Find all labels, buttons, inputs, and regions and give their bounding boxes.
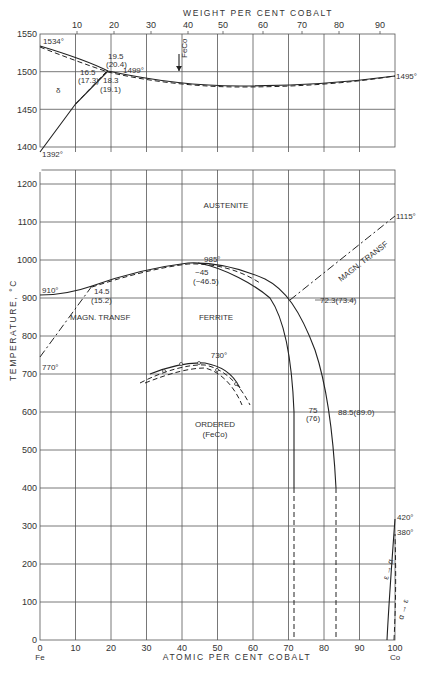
svg-text:380°: 380° xyxy=(397,528,414,537)
svg-text:1534°: 1534° xyxy=(43,37,64,46)
top-axis-title: WEIGHT PER CENT COBALT xyxy=(183,8,333,18)
fe-co-phase-diagram: 10 20 30 40 50 60 70 80 90 WEIGHT PER CE… xyxy=(0,0,448,673)
svg-text:900: 900 xyxy=(22,293,37,303)
svg-text:(17.3): (17.3) xyxy=(78,76,99,85)
svg-text:FERRITE: FERRITE xyxy=(199,313,233,322)
bottom-x-axis: 0 10 20 30 40 50 60 70 80 90 100 Fe Co A… xyxy=(35,643,402,662)
svg-text:Co: Co xyxy=(390,653,401,662)
svg-text:14.5: 14.5 xyxy=(94,287,110,296)
svg-text:10: 10 xyxy=(70,643,80,653)
svg-text:(FeCo): (FeCo) xyxy=(203,430,228,439)
lower-y-axis: 1200 1100 1000 900 800 700 600 500 400 3… xyxy=(8,179,37,645)
svg-text:90: 90 xyxy=(375,20,385,30)
svg-text:100: 100 xyxy=(22,597,37,607)
svg-text:80: 80 xyxy=(319,643,329,653)
svg-text:(~46.5): (~46.5) xyxy=(193,277,219,286)
svg-text:(15.2): (15.2) xyxy=(91,296,112,305)
svg-text:1500: 1500 xyxy=(17,67,37,77)
svg-text:1550: 1550 xyxy=(17,29,37,39)
svg-text:72.3(73.4): 72.3(73.4) xyxy=(320,296,357,305)
svg-text:1495°: 1495° xyxy=(396,72,417,81)
svg-text:ε → α: ε → α xyxy=(381,558,395,581)
svg-text:(19.1): (19.1) xyxy=(100,85,121,94)
svg-text:MAGN. TRANSF: MAGN. TRANSF xyxy=(70,313,130,322)
svg-text:100: 100 xyxy=(387,643,402,653)
svg-text:30: 30 xyxy=(146,20,156,30)
svg-text:1000: 1000 xyxy=(17,255,37,265)
svg-text:88.5(89.0): 88.5(89.0) xyxy=(338,408,375,417)
svg-text:20: 20 xyxy=(109,20,119,30)
svg-text:1392°: 1392° xyxy=(42,150,63,159)
y-axis-title: TEMPERATURE, °C xyxy=(8,279,18,381)
svg-text:50: 50 xyxy=(218,20,228,30)
svg-text:Fe: Fe xyxy=(35,653,45,662)
svg-text:500: 500 xyxy=(22,445,37,455)
svg-text:1400: 1400 xyxy=(17,142,37,152)
svg-text:ORDERED: ORDERED xyxy=(195,420,235,429)
svg-text:FeCo: FeCo xyxy=(180,38,189,58)
svg-text:730°: 730° xyxy=(211,351,228,360)
svg-text:1100: 1100 xyxy=(18,217,37,227)
top-weight-axis: 10 20 30 40 50 60 70 80 90 WEIGHT PER CE… xyxy=(72,8,385,34)
svg-text:80: 80 xyxy=(334,20,344,30)
svg-text:910°: 910° xyxy=(42,286,59,295)
svg-text:70: 70 xyxy=(297,20,307,30)
lower-panel-grid xyxy=(40,165,395,640)
svg-text:300: 300 xyxy=(22,521,37,531)
upper-y-axis: 1550 1500 1450 1400 xyxy=(17,29,37,152)
svg-text:700: 700 xyxy=(22,369,37,379)
svg-text:1115°: 1115° xyxy=(396,212,416,221)
svg-text:40: 40 xyxy=(183,20,193,30)
svg-text:60: 60 xyxy=(258,20,268,30)
svg-text:10: 10 xyxy=(72,20,82,30)
x-axis-title: ATOMIC PER CENT COBALT xyxy=(163,652,311,662)
svg-text:800: 800 xyxy=(22,331,37,341)
svg-text:90: 90 xyxy=(354,643,364,653)
svg-text:(20.4): (20.4) xyxy=(106,60,127,69)
svg-text:20: 20 xyxy=(106,643,116,653)
svg-text:δ: δ xyxy=(56,86,61,95)
svg-text:α → ε: α → ε xyxy=(396,598,410,621)
svg-text:0: 0 xyxy=(32,635,37,645)
svg-text:AUSTENITE: AUSTENITE xyxy=(204,201,249,210)
upper-panel-labels: 1534° 1392° 1499° 1495° 19.5 (20.4) 16.5… xyxy=(42,37,417,159)
svg-text:18.3: 18.3 xyxy=(103,76,119,85)
svg-text:420°: 420° xyxy=(397,513,414,522)
svg-text:MAGN. TRANSF: MAGN. TRANSF xyxy=(337,239,390,283)
svg-text:0: 0 xyxy=(37,643,42,653)
svg-text:~45: ~45 xyxy=(195,268,209,277)
svg-text:1200: 1200 xyxy=(17,179,37,189)
svg-text:200: 200 xyxy=(22,559,37,569)
upper-panel-grid xyxy=(40,34,395,152)
svg-text:985°: 985° xyxy=(204,255,221,264)
svg-text:(76): (76) xyxy=(306,414,321,423)
svg-text:400: 400 xyxy=(22,483,37,493)
svg-text:600: 600 xyxy=(22,407,37,417)
svg-text:30: 30 xyxy=(141,643,151,653)
svg-text:770°: 770° xyxy=(42,363,59,372)
svg-text:1450: 1450 xyxy=(17,105,37,115)
